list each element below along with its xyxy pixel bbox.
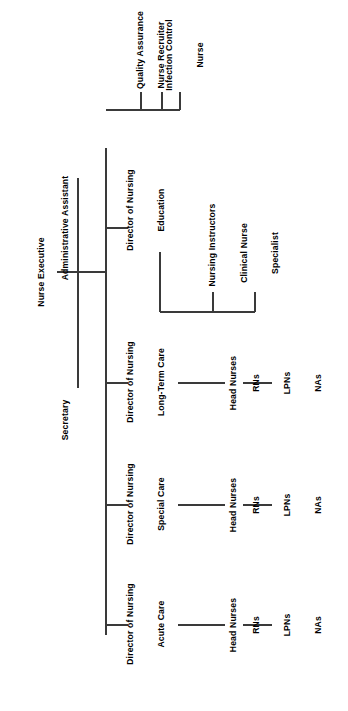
node-staff-special-care[interactable]: RNs LPNs NAs [231, 494, 343, 517]
node-label: Administrative Assistant [61, 176, 71, 281]
node-label: Director of Nursing [126, 341, 136, 423]
node-staff-long-term-care[interactable]: RNs LPNs NAs [231, 372, 343, 395]
node-label: RNs [251, 372, 261, 395]
node-label-line2: Specialist [270, 223, 280, 283]
node-label-line2: Acute Care [156, 583, 166, 665]
node-label: Nursing Instructors [208, 203, 218, 286]
node-label: Secretary [61, 400, 71, 441]
node-label: Director of Nursing [126, 583, 136, 665]
node-director-nursing-acute-care[interactable]: Director of Nursing Acute Care [105, 583, 187, 665]
node-label-line2: Education [156, 169, 166, 251]
org-chart: Nurse Executive Secretary Administrative… [0, 0, 348, 711]
node-administrative-assistant[interactable]: Administrative Assistant [40, 176, 91, 281]
node-secretary[interactable]: Secretary [40, 400, 91, 441]
node-label: RNs [251, 614, 261, 637]
node-label-line3: NAs [313, 372, 323, 395]
node-label-line2: Special Care [156, 463, 166, 545]
node-label-line2: LPNs [282, 614, 292, 637]
node-label-line2: Nurse [195, 19, 205, 91]
node-label-line2: LPNs [282, 372, 292, 395]
node-label: RNs [251, 494, 261, 517]
node-clinical-nurse-specialist[interactable]: Clinical Nurse Specialist [219, 223, 301, 283]
node-label-line2: LPNs [282, 494, 292, 517]
node-label: Clinical Nurse [240, 223, 250, 283]
node-infection-control-nurse[interactable]: Infection Control Nurse [144, 19, 226, 91]
node-label-line3: NAs [313, 494, 323, 517]
node-label-line3: NAs [313, 614, 323, 637]
node-director-nursing-education[interactable]: Director of Nursing Education [105, 169, 187, 251]
node-director-nursing-special-care[interactable]: Director of Nursing Special Care [105, 463, 187, 545]
node-label: Infection Control [165, 19, 175, 91]
node-label: Director of Nursing [126, 463, 136, 545]
node-label-line2: Long-Term Care [156, 341, 166, 423]
node-label: Director of Nursing [126, 169, 136, 251]
node-director-nursing-long-term-care[interactable]: Director of Nursing Long-Term Care [105, 341, 187, 423]
node-staff-acute-care[interactable]: RNs LPNs NAs [231, 614, 343, 637]
